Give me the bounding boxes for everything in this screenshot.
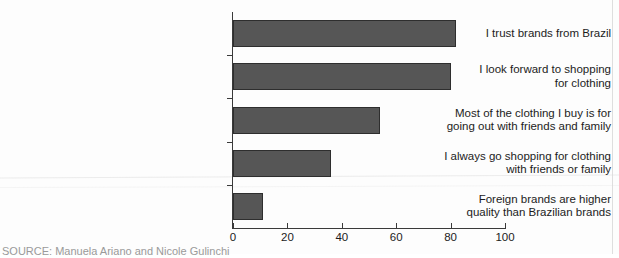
value-tick — [233, 223, 234, 229]
category-tick — [227, 142, 233, 143]
category-label: Most of the clothing I buy is for going … — [397, 107, 619, 134]
value-tick — [342, 223, 343, 229]
value-tick — [396, 223, 397, 229]
category-tick — [227, 98, 233, 99]
value-axis-line — [233, 228, 505, 229]
source-note: SOURCE: Manuela Ariano and Nicole Gulinc… — [2, 245, 602, 258]
bar-row — [233, 107, 380, 134]
bar-row — [233, 20, 456, 47]
bar — [233, 107, 380, 134]
bar-row — [233, 63, 451, 90]
category-label: Foreign brands are higher quality than B… — [397, 193, 619, 220]
value-tick-label: 20 — [267, 231, 307, 243]
value-tick — [451, 223, 452, 229]
value-tick-label: 40 — [322, 231, 362, 243]
value-tick-label: 60 — [376, 231, 416, 243]
bar — [233, 20, 456, 47]
category-tick — [227, 55, 233, 56]
value-tick — [505, 223, 506, 229]
bar — [233, 150, 331, 177]
value-tick — [287, 223, 288, 229]
value-tick-label: 80 — [431, 231, 471, 243]
value-tick-label: 100 — [485, 231, 525, 243]
value-tick-label: 0 — [213, 231, 253, 243]
category-tick — [227, 185, 233, 186]
category-label: I always go shopping for clothing with f… — [397, 150, 619, 177]
bar-row — [233, 193, 263, 220]
bar — [233, 63, 451, 90]
bar — [233, 193, 263, 220]
bar-row — [233, 150, 331, 177]
